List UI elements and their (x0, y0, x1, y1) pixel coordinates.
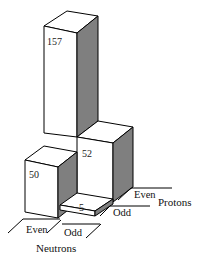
neutrons-axis (8, 219, 101, 238)
neutrons-tick-right (86, 224, 101, 238)
three-d-bar-chart: 157 50 52 5 Even Odd Even Odd Neutrons P… (0, 0, 209, 264)
bar-even-even (44, 11, 98, 137)
chart-figure: 157 50 52 5 Even Odd Even Odd Neutrons P… (0, 0, 209, 264)
bar-odd-even (77, 121, 133, 202)
neutrons-category-even: Even (26, 224, 48, 235)
neutrons-axis-title: Neutrons (36, 242, 76, 254)
bar-odd-even-front-face (77, 137, 113, 202)
value-label-odd-odd: 5 (79, 202, 84, 213)
bar-even-even-side-face (77, 16, 98, 137)
value-label-even-even: 157 (47, 36, 62, 47)
neutrons-category-odd: Odd (64, 227, 83, 238)
neutrons-tick-left (8, 219, 23, 233)
protons-axis-title: Protons (158, 196, 192, 208)
protons-category-even: Even (134, 189, 156, 200)
value-label-odd-even: 52 (82, 148, 92, 159)
value-label-even-odd: 50 (29, 169, 39, 180)
neutrons-tick-middle (47, 220, 61, 233)
protons-category-odd: Odd (113, 207, 132, 218)
